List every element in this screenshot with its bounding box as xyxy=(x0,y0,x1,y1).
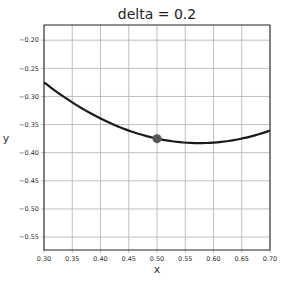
svg-text:0.30: 0.30 xyxy=(37,255,51,263)
svg-text:0.70: 0.70 xyxy=(263,255,277,263)
chart-title: delta = 0.2 xyxy=(118,6,196,22)
svg-text:−0.20: −0.20 xyxy=(19,36,39,44)
svg-text:0.50: 0.50 xyxy=(150,255,164,263)
svg-text:−0.50: −0.50 xyxy=(19,205,39,213)
data-marker xyxy=(153,134,162,143)
svg-text:0.60: 0.60 xyxy=(206,255,220,263)
svg-text:−0.30: −0.30 xyxy=(19,93,39,101)
x-axis-ticks: 0.300.350.400.450.500.550.600.650.70 xyxy=(37,255,277,263)
x-axis-label: x xyxy=(154,263,161,276)
svg-text:−0.55: −0.55 xyxy=(19,233,39,241)
svg-text:0.35: 0.35 xyxy=(65,255,79,263)
svg-text:0.65: 0.65 xyxy=(235,255,249,263)
svg-text:0.55: 0.55 xyxy=(178,255,192,263)
y-axis-ticks: −0.20−0.25−0.30−0.35−0.40−0.45−0.50−0.55 xyxy=(19,36,39,241)
chart: delta = 0.2 −0.20−0.25−0.30−0.35−0.40−0.… xyxy=(0,0,283,284)
svg-text:−0.35: −0.35 xyxy=(19,121,39,129)
svg-text:0.45: 0.45 xyxy=(122,255,136,263)
svg-text:−0.45: −0.45 xyxy=(19,177,39,185)
svg-text:−0.40: −0.40 xyxy=(19,149,39,157)
svg-text:0.40: 0.40 xyxy=(93,255,107,263)
y-axis-label: y xyxy=(3,132,10,145)
svg-text:−0.25: −0.25 xyxy=(19,65,39,73)
